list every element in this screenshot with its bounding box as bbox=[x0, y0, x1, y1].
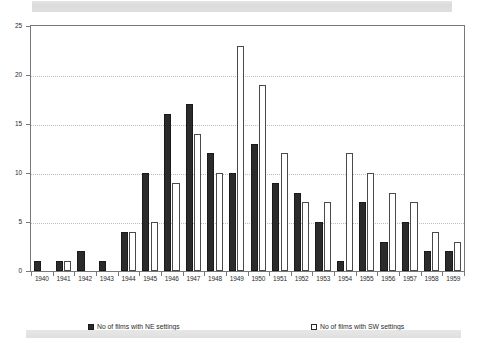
x-tick-label: 1949 bbox=[230, 276, 244, 283]
bar-group bbox=[291, 26, 313, 271]
bar bbox=[99, 261, 106, 271]
bar bbox=[294, 193, 301, 271]
legend-swatch-sw-icon bbox=[311, 324, 317, 330]
y-tick-label: 0 bbox=[18, 268, 22, 275]
x-tick-mark bbox=[248, 272, 249, 276]
bar-group bbox=[226, 26, 248, 271]
x-tick-label: 1959 bbox=[446, 276, 460, 283]
bar bbox=[445, 251, 452, 271]
y-tick-mark bbox=[26, 124, 30, 125]
y-tick-mark bbox=[26, 26, 30, 27]
bar-group bbox=[442, 26, 464, 271]
bar bbox=[359, 202, 366, 271]
bar bbox=[129, 232, 136, 271]
bar bbox=[281, 153, 288, 271]
bar bbox=[389, 193, 396, 271]
bar bbox=[164, 114, 171, 271]
bar bbox=[172, 183, 179, 271]
x-tick-mark bbox=[421, 272, 422, 276]
x-tick-mark bbox=[356, 272, 357, 276]
bars-layer bbox=[31, 26, 464, 271]
bar bbox=[402, 222, 409, 271]
x-tick-mark bbox=[464, 272, 465, 276]
x-tick-label: 1954 bbox=[338, 276, 352, 283]
x-tick-label: 1946 bbox=[165, 276, 179, 283]
legend-label-ne: No of films with NE settings bbox=[97, 323, 180, 330]
scan-artifact-top-band bbox=[32, 1, 452, 12]
x-tick-mark bbox=[269, 272, 270, 276]
x-tick-mark bbox=[53, 272, 54, 276]
x-tick-mark bbox=[226, 272, 227, 276]
bar-group bbox=[118, 26, 140, 271]
bar-group bbox=[74, 26, 96, 271]
y-tick-mark bbox=[26, 75, 30, 76]
bar bbox=[34, 261, 41, 271]
x-tick-mark bbox=[377, 272, 378, 276]
bar bbox=[77, 251, 84, 271]
y-tick-label: 5 bbox=[18, 219, 22, 226]
x-tick-label: 1952 bbox=[295, 276, 309, 283]
bar bbox=[367, 173, 374, 271]
bar bbox=[259, 85, 266, 271]
bar-group bbox=[269, 26, 291, 271]
bar bbox=[64, 261, 71, 271]
x-tick-label: 1945 bbox=[143, 276, 157, 283]
bar bbox=[251, 144, 258, 271]
bar-group bbox=[312, 26, 334, 271]
bar bbox=[142, 173, 149, 271]
bar-group bbox=[53, 26, 75, 271]
bar-group bbox=[96, 26, 118, 271]
x-tick-label: 1951 bbox=[273, 276, 287, 283]
bar bbox=[121, 232, 128, 271]
x-tick-label: 1944 bbox=[121, 276, 135, 283]
bar bbox=[56, 261, 63, 271]
bar-group bbox=[161, 26, 183, 271]
y-tick-mark bbox=[26, 222, 30, 223]
x-tick-label: 1947 bbox=[186, 276, 200, 283]
x-tick-label: 1956 bbox=[381, 276, 395, 283]
bar-group bbox=[31, 26, 53, 271]
legend-swatch-ne-icon bbox=[88, 324, 94, 330]
legend-entry-ne: No of films with NE settings bbox=[88, 323, 180, 330]
bar bbox=[216, 173, 223, 271]
x-tick-mark bbox=[291, 272, 292, 276]
bar bbox=[337, 261, 344, 271]
bar bbox=[186, 104, 193, 271]
x-tick-label: 1958 bbox=[425, 276, 439, 283]
x-tick-label: 1957 bbox=[403, 276, 417, 283]
y-axis: 0510152025 bbox=[0, 25, 28, 272]
bar-group bbox=[204, 26, 226, 271]
y-tick-mark bbox=[26, 173, 30, 174]
y-tick-label: 20 bbox=[15, 72, 22, 79]
legend-entry-sw: No of films with SW settings bbox=[311, 323, 404, 330]
scan-artifact-bottom-band bbox=[26, 330, 461, 338]
bar bbox=[432, 232, 439, 271]
y-tick-label: 15 bbox=[15, 121, 22, 128]
bar bbox=[424, 251, 431, 271]
x-tick-mark bbox=[139, 272, 140, 276]
x-tick-mark bbox=[204, 272, 205, 276]
x-tick-mark bbox=[118, 272, 119, 276]
x-tick-label: 1940 bbox=[35, 276, 49, 283]
bar bbox=[410, 202, 417, 271]
bar-group bbox=[421, 26, 443, 271]
x-tick-label: 1941 bbox=[57, 276, 71, 283]
bar bbox=[194, 134, 201, 271]
bar bbox=[151, 222, 158, 271]
bar bbox=[302, 202, 309, 271]
y-tick-label: 25 bbox=[15, 23, 22, 30]
x-tick-label: 1953 bbox=[316, 276, 330, 283]
bar-group bbox=[356, 26, 378, 271]
bar-group bbox=[139, 26, 161, 271]
x-tick-label: 1942 bbox=[78, 276, 92, 283]
x-axis: 1940194119421943194419451946194719481949… bbox=[31, 276, 464, 290]
bar-group bbox=[183, 26, 205, 271]
bar bbox=[324, 202, 331, 271]
x-tick-label: 1943 bbox=[100, 276, 114, 283]
y-tick-mark bbox=[26, 271, 30, 272]
x-tick-label: 1955 bbox=[360, 276, 374, 283]
bar-group bbox=[248, 26, 270, 271]
bar-group bbox=[399, 26, 421, 271]
bar bbox=[454, 242, 461, 271]
x-tick-mark bbox=[96, 272, 97, 276]
